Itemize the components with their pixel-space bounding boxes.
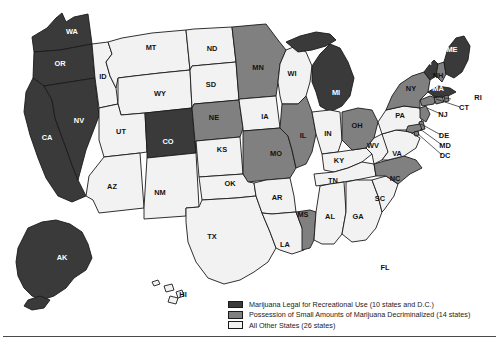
state-label-in: IN — [324, 129, 331, 138]
state-hi — [164, 284, 174, 292]
state-label-ga: GA — [352, 212, 364, 221]
state-label-va: VA — [392, 149, 402, 158]
state-label-ca: CA — [42, 133, 53, 142]
state-label-ks: KS — [217, 145, 227, 154]
state-label-ky: KY — [334, 156, 344, 165]
state-ak — [16, 220, 92, 300]
callout-label-ri: RI — [474, 93, 481, 102]
legend-swatch-decriminalized — [228, 311, 243, 318]
state-label-co: CO — [162, 137, 173, 146]
state-label-ma: MA — [432, 84, 444, 93]
state-label-nd: ND — [207, 44, 218, 53]
state-label-sc: SC — [375, 194, 386, 203]
state-label-la: LA — [280, 240, 291, 249]
state-label-vt: VT — [423, 58, 433, 67]
state-label-mn: MN — [252, 63, 264, 72]
state-label-ut: UT — [116, 127, 126, 136]
state-label-ms: MS — [297, 210, 308, 219]
state-label-nv: NV — [74, 116, 84, 125]
map-figure: WAORCANVIDMTWYUTAZCONMNDSDNEKSOKTXMNIAMO… — [0, 0, 499, 345]
state-ak — [24, 296, 50, 310]
state-label-tx: TX — [207, 232, 217, 241]
state-label-wy: WY — [154, 89, 166, 98]
state-label-wv: WV — [367, 141, 379, 150]
state-label-tn: TN — [328, 176, 338, 185]
state-label-al: AL — [325, 212, 335, 221]
callout-label-dc: DC — [440, 151, 451, 160]
state-label-pa: PA — [395, 111, 405, 120]
state-label-ne: NE — [209, 113, 219, 122]
state-hi — [168, 296, 178, 304]
state-label-mt: MT — [146, 43, 157, 52]
state-label-ar: AR — [272, 193, 283, 202]
legend-label: Possession of Small Amounts of Marijuana… — [249, 310, 470, 319]
bottom-rule — [3, 336, 496, 337]
legend-item: Possession of Small Amounts of Marijuana… — [228, 310, 496, 320]
state-label-id: ID — [99, 72, 107, 81]
us-choropleth-map: WAORCANVIDMTWYUTAZCONMNDSDNEKSOKTXMNIAMO… — [0, 0, 499, 345]
state-label-nh: NH — [433, 71, 444, 80]
state-label-mi: MI — [332, 88, 340, 97]
state-label-ny: NY — [406, 84, 416, 93]
state-label-ia: IA — [261, 112, 269, 121]
legend-swatch-other — [228, 321, 243, 328]
state-dc — [414, 131, 419, 136]
state-label-sd: SD — [206, 80, 217, 89]
state-me — [444, 36, 470, 78]
state-ia — [239, 96, 280, 131]
state-label-ok: OK — [224, 179, 236, 188]
state-label-nc: NC — [390, 174, 401, 183]
state-label-mo: MO — [270, 149, 282, 158]
state-label-wi: WI — [287, 69, 296, 78]
state-label-il: IL — [300, 131, 307, 140]
state-co — [145, 108, 196, 158]
callout-label-md: MD — [439, 141, 451, 150]
state-label-wa: WA — [66, 27, 79, 36]
state-hi — [152, 280, 160, 286]
callout-label-nj: NJ — [438, 110, 447, 119]
legend-item: Marijuana Legal for Recreational Use (10… — [228, 300, 496, 310]
state-label-or: OR — [54, 59, 66, 68]
legend-label: All Other States (26 states) — [249, 321, 335, 330]
state-label-me: ME — [446, 45, 457, 54]
callout-label-de: DE — [439, 131, 449, 140]
state-label-fl: FL — [380, 263, 390, 272]
state-shapes-layer — [16, 13, 470, 310]
state-label-az: AZ — [107, 182, 117, 191]
state-label-ak: AK — [57, 253, 68, 262]
legend-label: Marijuana Legal for Recreational Use (10… — [249, 300, 434, 309]
state-mi — [312, 44, 354, 112]
state-label-hi: HI — [179, 290, 186, 299]
callout-label-ct: CT — [459, 103, 469, 112]
legend-swatch-legal — [228, 301, 243, 308]
legend: Marijuana Legal for Recreational Use (10… — [228, 300, 496, 331]
legend-item: All Other States (26 states) — [228, 320, 496, 330]
state-label-nm: NM — [154, 188, 166, 197]
state-label-oh: OH — [351, 121, 362, 130]
state-ks — [196, 137, 243, 177]
